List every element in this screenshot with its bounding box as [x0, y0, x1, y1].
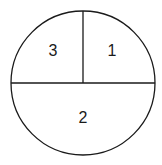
region-label-top-left: 3	[49, 42, 58, 59]
region-label-bottom: 2	[79, 109, 88, 126]
region-label-top-right: 1	[108, 42, 117, 59]
divided-circle-diagram: 3 1 2	[0, 0, 162, 165]
